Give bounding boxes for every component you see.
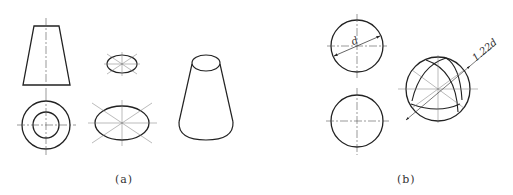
front-view-sphere: d (327, 14, 387, 78)
front-view-truncated-cone (23, 26, 70, 85)
caption-panel-a: (a) (115, 173, 133, 186)
small-ellipse-construction (104, 52, 140, 76)
isometric-sphere: 1.22d (148, 0, 499, 123)
large-ellipse-construction (88, 100, 157, 146)
centerlines-top-view (17, 94, 76, 155)
caption-panel-b: (b) (397, 173, 416, 186)
isometric-truncated-cone (179, 55, 233, 140)
drawing-canvas: d 1.22d (0, 0, 513, 195)
top-view-sphere (326, 88, 389, 155)
dimension-label-iso: 1.22d (470, 36, 499, 63)
dimension-label-d: d (349, 34, 359, 47)
